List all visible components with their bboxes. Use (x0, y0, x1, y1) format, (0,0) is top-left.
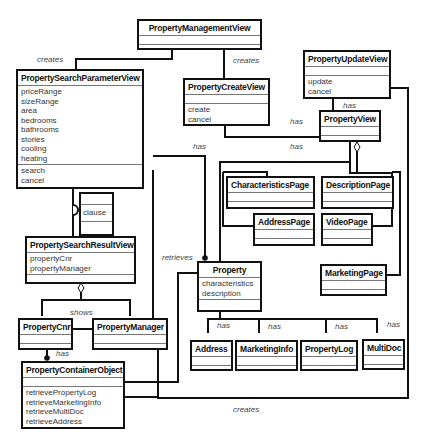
class-marketing-info: MarketingInfo (235, 340, 298, 371)
class-name: PropertyUpdateView (305, 52, 389, 67)
class-name: PropertyContainerObject (23, 363, 123, 378)
class-property-update-view: PropertyUpdateView update cancel (303, 50, 391, 99)
label-retrieves: retrieves (162, 253, 193, 262)
attributes: priceRange sizeRange area bedrooms bathr… (18, 86, 142, 165)
label-has: has (290, 117, 303, 126)
class-name: MarketingPage (322, 266, 385, 281)
class-name: MarketingInfo (237, 342, 296, 357)
class-property-search-parameter-view: PropertySearchParameterView priceRange s… (16, 69, 144, 189)
operations: update cancel (305, 76, 389, 97)
class-name: PropertyCreateView (185, 80, 268, 95)
operations: create cancel (185, 104, 268, 125)
label-has: has (387, 320, 400, 329)
class-characteristics-page: CharacteristicsPage (226, 176, 315, 209)
class-name: MultiDoc (364, 341, 403, 356)
class-name: VideoPage (323, 215, 371, 230)
class-name: PropertySearchResultView (27, 238, 134, 253)
label-creates: creates (233, 56, 259, 65)
label-has: has (56, 349, 69, 358)
class-property-search-result-view: PropertySearchResultView propertyCnr pro… (25, 236, 136, 284)
class-name: clause (81, 205, 112, 222)
class-name: PropertyLog (302, 342, 356, 357)
class-property-create-view: PropertyCreateView create cancel (183, 78, 270, 126)
class-property-view: PropertyView (319, 110, 381, 142)
label-has: has (343, 101, 356, 110)
class-name: Property (199, 263, 260, 278)
class-name: PropertyCnr (20, 320, 71, 335)
class-clause: clause (79, 192, 114, 236)
class-name: PropertyManager (94, 320, 166, 335)
class-property-management-view: PropertyManagementView (137, 19, 262, 50)
class-address: Address (190, 340, 233, 371)
class-name: CharacteristicsPage (228, 178, 313, 193)
class-name: PropertyView (321, 112, 379, 127)
label-has: has (290, 142, 303, 151)
label-shows: shows (70, 308, 93, 317)
class-property-container-object: PropertyContainerObject retrieveProperty… (21, 361, 125, 429)
class-description-page: DescriptionPage (321, 176, 394, 209)
class-name: Address (192, 342, 231, 357)
operations: search cancel (18, 165, 142, 186)
class-name: DescriptionPage (323, 178, 392, 193)
attributes: characteristics description (199, 278, 260, 300)
class-name: PropertySearchParameterView (18, 71, 142, 86)
class-name: AddressPage (255, 215, 313, 230)
label-has: has (335, 322, 348, 331)
label-creates: creates (233, 405, 259, 414)
class-video-page: VideoPage (321, 213, 373, 246)
label-creates: creates (37, 55, 63, 64)
label-has: has (193, 142, 206, 151)
class-property-cnr: PropertyCnr (18, 318, 73, 350)
label-has: has (217, 321, 230, 330)
class-property-log: PropertyLog (300, 340, 358, 371)
class-marketing-page: MarketingPage (320, 264, 387, 296)
class-name: PropertyManagementView (139, 21, 260, 36)
class-property: Property characteristics description (197, 261, 262, 312)
attributes: propertyCnr propertyManager (27, 253, 134, 275)
label-has: has (268, 322, 281, 331)
class-address-page: AddressPage (253, 213, 315, 246)
class-property-manager: PropertyManager (92, 318, 168, 350)
operations: retrievePropertyLog retrieveMarketingInf… (23, 387, 123, 427)
class-multi-doc: MultiDoc (362, 339, 405, 370)
